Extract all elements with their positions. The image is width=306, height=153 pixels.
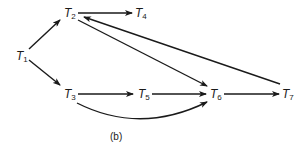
figure-caption: (b)	[110, 131, 122, 142]
edges-layer	[0, 0, 306, 153]
node-t3-subscript: 3	[71, 93, 75, 102]
node-t5-subscript: 5	[145, 93, 149, 102]
node-t2: T2	[64, 7, 76, 21]
node-t3: T3	[64, 88, 76, 102]
edge-t1-t2	[29, 20, 60, 49]
node-t5: T5	[138, 88, 150, 102]
task-precedence-graph: T1 T2 T3 T4 T5 T6 T7 (b)	[0, 0, 306, 153]
node-t7-subscript: 7	[289, 93, 293, 102]
node-t2-subscript: 2	[71, 12, 75, 21]
node-t6-subscript: 6	[217, 93, 221, 102]
node-t1-subscript: 1	[23, 55, 27, 64]
edge-t1-t3	[29, 60, 60, 85]
node-t6: T6	[210, 88, 222, 102]
node-t1: T1	[16, 50, 28, 64]
node-t4: T4	[135, 7, 147, 21]
edge-t3-t6-curved	[77, 102, 207, 119]
node-t4-subscript: 4	[142, 12, 146, 21]
node-t7: T7	[282, 88, 294, 102]
